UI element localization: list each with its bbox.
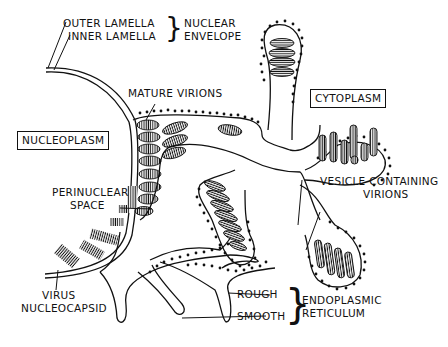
label-cytoplasm: CYTOPLASM [310, 89, 386, 108]
label-perinuclear: PERINUCLEAR [52, 186, 129, 199]
label-nucleoplasm: NUCLEOPLASM [17, 131, 109, 150]
label-endoplasmic: ENDOPLASMIC [302, 294, 382, 307]
vesicle-virions [269, 39, 295, 77]
label-envelope: ENVELOPE [184, 30, 241, 43]
label-nucleocapsid: NUCLEOCAPSID [21, 302, 107, 315]
label-virions: VIRIONS [363, 188, 409, 201]
perinuclear-virions [135, 120, 161, 216]
label-smooth: SMOOTH [237, 310, 285, 323]
label-space: SPACE [70, 199, 105, 212]
label-virus: VIRUS [42, 289, 75, 302]
label-inner-lamella: INNER LAMELLA [68, 30, 156, 43]
nuclear-envelope-brace: } [165, 14, 183, 44]
lower-vesicle-virions [314, 240, 355, 279]
label-outer-lamella: OUTER LAMELLA [63, 17, 155, 30]
label-nuclear: NUCLEAR [184, 17, 236, 30]
label-rough: ROUGH [237, 288, 278, 301]
label-mature-virions: MATURE VIRIONS [128, 87, 222, 100]
label-vesicle-containing: VESICLE CONTAINING [320, 175, 438, 188]
label-reticulum: RETICULUM [302, 307, 365, 320]
mature-virions-group [161, 119, 243, 161]
diagram-canvas: OUTER LAMELLA INNER LAMELLA } NUCLEAR EN… [0, 0, 448, 347]
